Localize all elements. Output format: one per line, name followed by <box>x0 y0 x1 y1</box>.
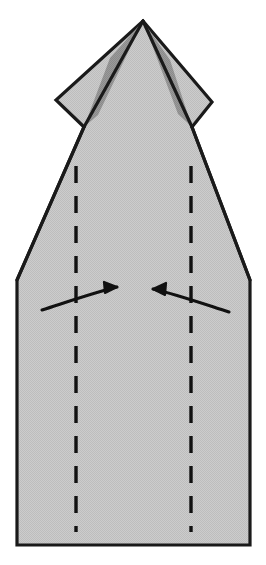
paper-group <box>17 21 250 545</box>
paper-body <box>17 21 250 545</box>
origami-figure-svg <box>0 0 266 565</box>
origami-diagram: Flat paper model shown from the front: a… <box>0 0 266 565</box>
